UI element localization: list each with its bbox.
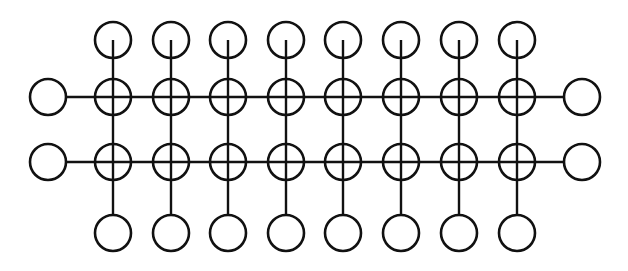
bottom-node-7 <box>441 215 477 251</box>
bottom-node-1 <box>95 215 131 251</box>
right-end-node-1 <box>564 79 600 115</box>
left-end-node-2 <box>30 144 66 180</box>
bottom-node-5 <box>325 215 361 251</box>
bottom-node-6 <box>383 215 419 251</box>
bottom-node-3 <box>210 215 246 251</box>
bottom-node-8 <box>499 215 535 251</box>
bottom-node-2 <box>153 215 189 251</box>
bottom-node-4 <box>268 215 304 251</box>
right-end-node-2 <box>564 144 600 180</box>
left-end-node-1 <box>30 79 66 115</box>
network-diagram <box>0 0 628 271</box>
